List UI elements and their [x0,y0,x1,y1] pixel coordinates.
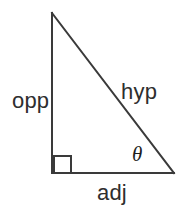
label-hypotenuse-side: hyp [121,81,157,103]
right-angle-square-icon [54,156,71,173]
label-opposite-side: opp [12,90,49,112]
trigonometry-diagram: opp hyp adj θ [0,0,176,210]
label-adjacent-side: adj [97,182,127,204]
label-angle-theta: θ [132,144,142,165]
